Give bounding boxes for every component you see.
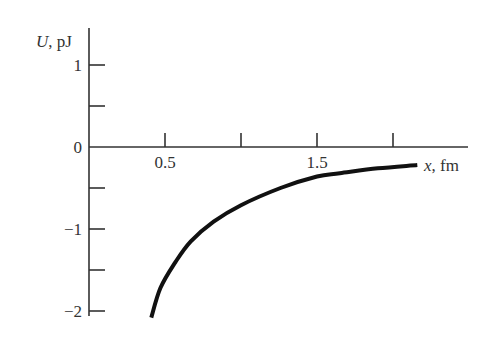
y-axis-label: U, pJ	[36, 32, 72, 51]
y-tick-label-1: 1	[74, 56, 83, 75]
x-axis-label: x, fm	[423, 156, 459, 175]
y-ticks	[89, 65, 105, 311]
y-tick-label-minus-1: −1	[64, 220, 82, 239]
x-tick-label-1-5: 1.5	[306, 153, 327, 172]
y-tick-label-0: 0	[74, 138, 83, 157]
potential-energy-chart: U, pJ 1 0 −1 −2 0.5 1.5 x, fm	[0, 0, 500, 340]
x-tick-label-0-5: 0.5	[154, 153, 175, 172]
potential-curve	[151, 165, 417, 318]
x-ticks	[165, 133, 393, 147]
y-tick-label-minus-2: −2	[64, 302, 82, 321]
